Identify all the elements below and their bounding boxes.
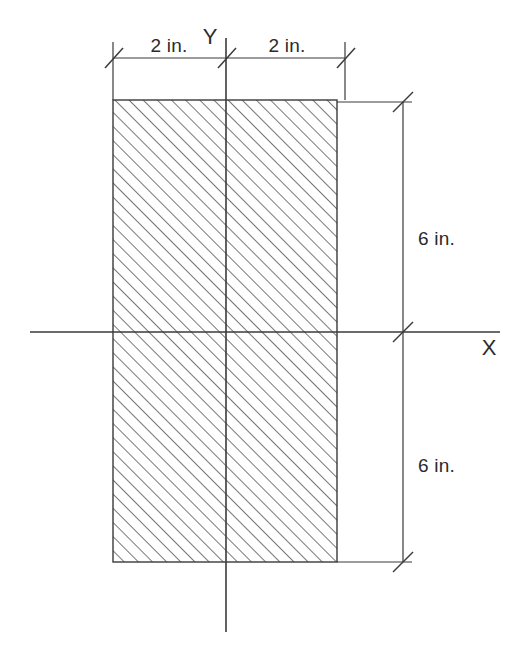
dimension-label-right-upper: 6 in. [418,228,455,249]
engineering-diagram: 2 in. 2 in. 6 in. 6 in. X Y [0,0,530,665]
dimension-label-top-left: 2 in. [151,35,188,56]
y-axis-label: Y [203,24,218,49]
top-dimension-group: 2 in. 2 in. [105,35,355,100]
dimension-label-top-right: 2 in. [269,35,306,56]
hatched-section [113,100,337,562]
dimension-label-right-lower: 6 in. [418,455,455,476]
diagram-canvas: 2 in. 2 in. 6 in. 6 in. X Y [0,0,530,665]
x-axis-label: X [482,335,497,360]
section-hatch-fill [113,100,337,562]
